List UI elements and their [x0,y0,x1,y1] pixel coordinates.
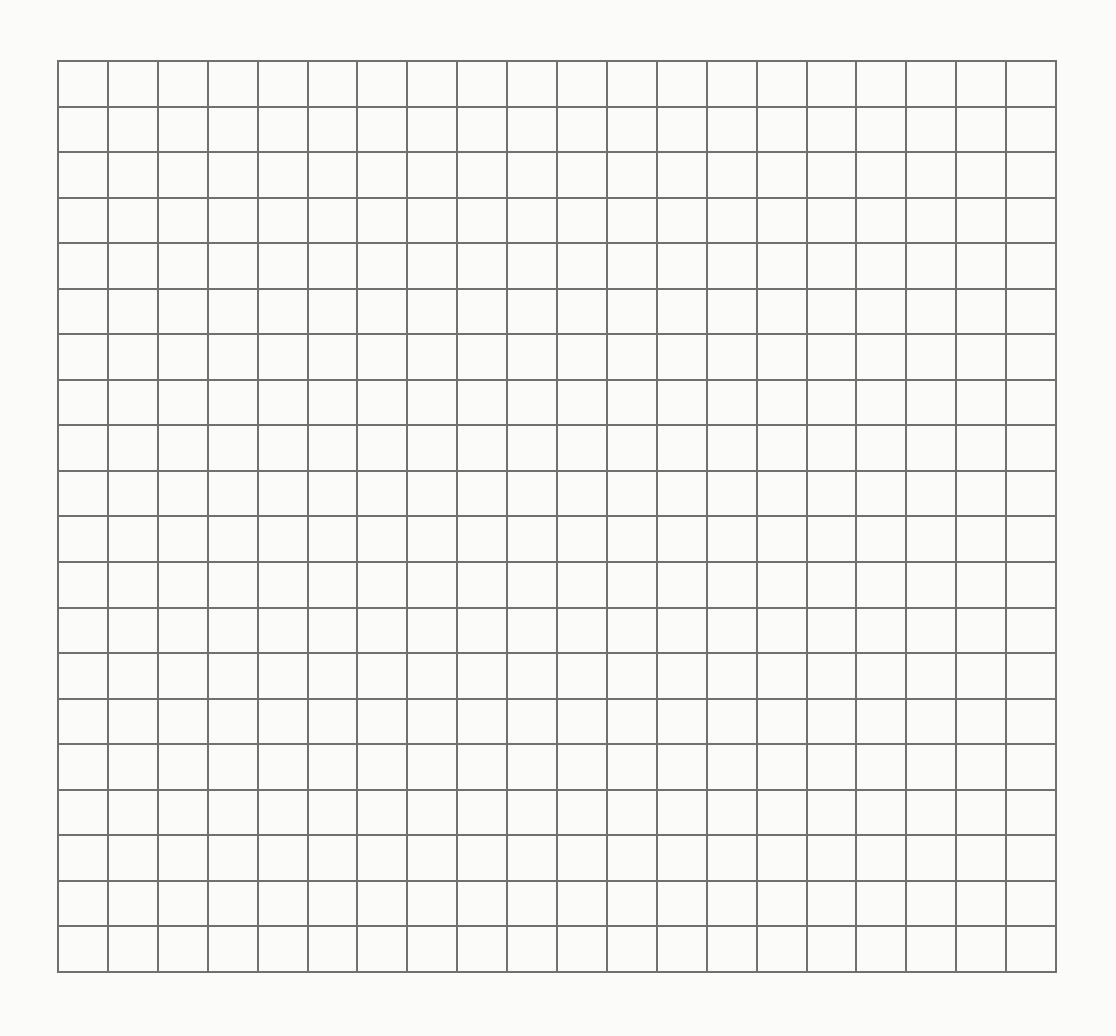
grid-cell [556,515,606,561]
grid-cell [456,470,506,516]
grid-cell [207,743,257,789]
grid-cell [307,242,357,288]
grid-cell [107,698,157,744]
grid-cell [806,242,856,288]
grid-cell [257,698,307,744]
grid-cell [656,789,706,835]
grid-cell [706,880,756,926]
grid-cell [1005,743,1055,789]
grid-cell [606,333,656,379]
grid-cell [905,880,955,926]
grid-cell [706,652,756,698]
grid-cell [905,60,955,106]
grid-cell [806,834,856,880]
grid-cell [307,561,357,607]
grid-cell [855,470,905,516]
grid-cell [806,698,856,744]
grid-cell [955,60,1005,106]
grid-cell [556,379,606,425]
grid-cell [806,652,856,698]
grid-cell [157,106,207,152]
grid-cell [806,470,856,516]
grid-cell [1005,197,1055,243]
grid-cell [556,470,606,516]
grid-cell [806,197,856,243]
grid-cell [756,151,806,197]
grid-cell [57,515,107,561]
grid-cell [855,880,905,926]
grid-cell [257,379,307,425]
grid-cell [855,333,905,379]
grid-cell [307,652,357,698]
grid-cell [1005,333,1055,379]
grid-cell [307,743,357,789]
grid-cell [756,424,806,470]
grid-cell [207,652,257,698]
grid-cell [456,424,506,470]
grid-cell [756,561,806,607]
grid-cell [756,834,806,880]
grid-cell [506,470,556,516]
grid-cell [556,789,606,835]
grid-cell [756,698,806,744]
grid-cell [406,106,456,152]
grid-cell [606,197,656,243]
grid-cell [207,470,257,516]
grid-cell [556,288,606,334]
grid-cell [1005,242,1055,288]
grid-cell [656,333,706,379]
grid-cell [706,470,756,516]
grid-cell [456,515,506,561]
grid-cell [1005,515,1055,561]
grid-cell [756,60,806,106]
grid-cell [356,925,406,971]
grid-cell [107,60,157,106]
grid-cell [656,288,706,334]
grid-cell [905,698,955,744]
grid-cell [756,242,806,288]
grid-cell [107,288,157,334]
grid-cell [57,789,107,835]
grid-cell [905,743,955,789]
grid-cell [756,333,806,379]
grid-cell [606,743,656,789]
grid-cell [257,288,307,334]
grid-cell [356,288,406,334]
grid-cell [806,743,856,789]
grid-cell [57,242,107,288]
grid-cell [406,242,456,288]
blank-grid [57,60,1057,973]
grid-cell [955,470,1005,516]
grid-cell [905,561,955,607]
grid-cell [207,880,257,926]
grid-cell [157,515,207,561]
grid-cell [506,925,556,971]
grid-cell [257,515,307,561]
grid-cell [356,242,406,288]
grid-cell [706,151,756,197]
grid-cell [157,607,207,653]
grid-cell [57,424,107,470]
grid-cell [356,333,406,379]
grid-cell [107,743,157,789]
grid-cell [1005,607,1055,653]
grid-cell [307,60,357,106]
grid-cell [606,607,656,653]
grid-cell [207,379,257,425]
grid-cell [606,515,656,561]
grid-cell [706,515,756,561]
grid-cell [706,607,756,653]
grid-cell [606,470,656,516]
grid-cell [57,925,107,971]
grid-cell [955,288,1005,334]
grid-cell [656,106,706,152]
grid-cell [756,652,806,698]
grid-cell [506,106,556,152]
grid-cell [706,242,756,288]
grid-cell [556,424,606,470]
grid-cell [257,106,307,152]
grid-cell [905,379,955,425]
grid-cell [855,561,905,607]
grid-cell [157,151,207,197]
grid-cell [656,607,706,653]
